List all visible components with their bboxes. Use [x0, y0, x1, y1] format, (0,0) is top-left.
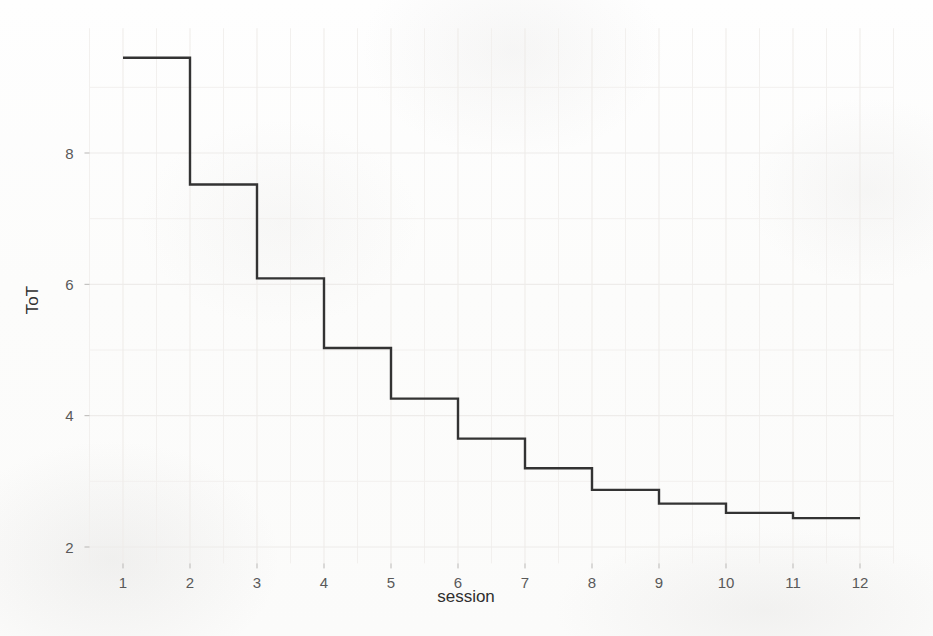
x-tick-label: 12: [852, 574, 869, 591]
x-tick-label: 5: [387, 574, 395, 591]
x-tick-label: 3: [253, 574, 261, 591]
x-tick-label: 9: [655, 574, 663, 591]
chart-canvas: 123456789101112 2468 session ToT: [0, 0, 933, 636]
step-chart: 123456789101112 2468 session ToT: [0, 0, 933, 636]
y-tick-label: 8: [65, 145, 73, 162]
x-tick-label: 10: [718, 574, 735, 591]
minor-gridlines: [90, 28, 894, 563]
x-tick-label: 11: [785, 574, 801, 591]
y-tick-label: 2: [65, 539, 73, 556]
x-axis-title: session: [437, 587, 495, 606]
y-tick-label: 4: [65, 407, 73, 424]
y-axis-title: ToT: [23, 286, 42, 314]
x-tick-label: 2: [186, 574, 194, 591]
x-tick-label: 7: [521, 574, 529, 591]
x-tick-label: 4: [320, 574, 328, 591]
x-tick-label: 1: [119, 574, 127, 591]
axis-ticks: [85, 153, 861, 568]
y-tick-labels: 2468: [65, 145, 73, 556]
y-tick-label: 6: [65, 276, 73, 293]
x-tick-label: 8: [588, 574, 596, 591]
